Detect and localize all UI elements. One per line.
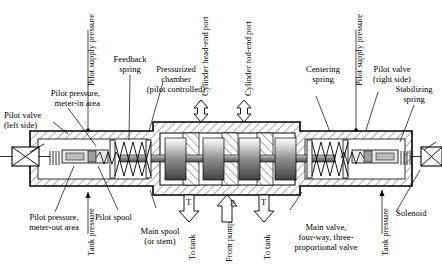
port-caption-tank-left: To tank <box>187 234 197 260</box>
label-pilot-supply-pressure-right: Pilot supply pressure <box>354 14 364 86</box>
valve-diagram: Pilot supply pressure Pilot supply press… <box>0 0 442 264</box>
port-caption-tank-right: To tank <box>262 234 272 260</box>
label-cylinder-rod-end-port: Cylinder rod-end port <box>243 21 253 96</box>
label-main-valve: Main valve, four-way, three- proportiona… <box>279 222 373 252</box>
label-pilot-spool: Pilot spool <box>95 212 157 222</box>
port-arrow-cyl-head-end <box>194 100 208 122</box>
label-pilot-pressure-meter-in: Pilot pressure, meter-in area <box>8 88 100 108</box>
label-stabilizing-spring: Stabilizing spring <box>386 84 442 104</box>
label-pressurized-chamber: Pressurized chamber (pilot controlled) <box>134 64 218 94</box>
port-caption-pump: From pump <box>224 222 234 262</box>
label-pilot-supply-pressure-left: Pilot supply pressure <box>86 14 96 86</box>
port-symbol-pump: P <box>230 198 235 208</box>
solenoid-right <box>410 142 442 166</box>
port-symbol-tank-right: T <box>261 197 266 207</box>
port-arrow-cyl-rod-end <box>237 100 251 122</box>
label-tank-pressure-right: Tank pressure <box>380 208 390 256</box>
port-symbol-tank-left: T <box>186 197 191 207</box>
label-pilot-pressure-meter-out: Pilot pressure, meter-out area <box>2 212 106 232</box>
label-pilot-valve-left: Pilot valve (left side) <box>4 110 64 130</box>
label-pilot-valve-right: Pilot valve (right side) <box>364 64 420 84</box>
label-solenoid: Solenoid <box>396 208 427 218</box>
label-centering-spring: Centering spring <box>294 64 352 84</box>
